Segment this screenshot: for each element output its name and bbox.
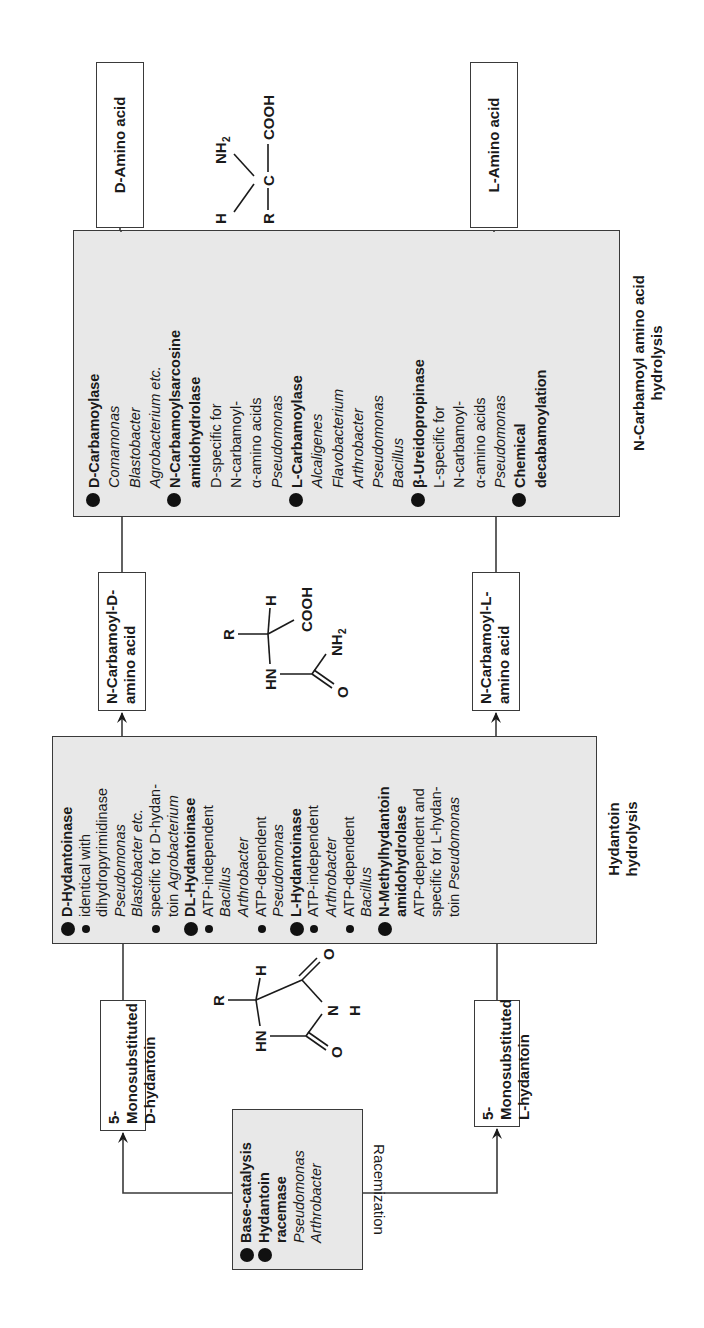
item-text: Base-catalysis (238, 1142, 256, 1243)
item-text: dihydropyrimidinase (94, 788, 112, 917)
svg-text:2: 2 (221, 136, 232, 142)
item-text: Bacillus (358, 867, 376, 917)
item-text: N-Carbamoylsarcosine (165, 330, 185, 488)
caption-line1: N-Carbamoyl amino acid (630, 248, 648, 478)
racemization-box: Base-catalysis Hydantoin racemase Pseudo… (232, 1109, 363, 1270)
compound-line2: amino acid (121, 579, 139, 704)
item-text: L-Hydantoinase (288, 808, 306, 917)
svg-text:R: R (220, 629, 237, 640)
svg-text:R: R (210, 995, 227, 1006)
item-text: Arthrobacter (308, 1163, 326, 1243)
item-text: Arthrobacter (323, 837, 341, 917)
item-text: Pseudomonas (368, 395, 388, 488)
bullet-icon (256, 1243, 274, 1263)
hydantoin-hydrolysis-caption: Hydantoin hydrolysis (605, 774, 641, 904)
item-text: amidohydrolase (185, 377, 205, 488)
bullet-icon (510, 488, 528, 508)
item-text: D-Carbamoylase (84, 374, 104, 488)
item-text: Pseudomonas (267, 395, 287, 488)
item-text: Hydantoin (256, 1172, 274, 1243)
svg-text:NH: NH (212, 142, 229, 164)
caption-line2: hydrolysis (623, 774, 641, 904)
svg-text:O: O (328, 1046, 345, 1058)
svg-text:O: O (320, 948, 337, 960)
svg-text:HN: HN (252, 1030, 269, 1052)
svg-text:O: O (334, 686, 351, 698)
n-carbamoyl-d-box: N-Carbamoyl-D- amino acid (98, 572, 146, 711)
item-text: Blastobacter (125, 407, 145, 488)
item-text: Bacillus (388, 438, 408, 488)
racemization-caption: Racemization (370, 1117, 388, 1262)
carbamoyl-amino-acid-structure: R H HN COOH O NH 2 (220, 568, 370, 698)
bullet-icon (376, 917, 394, 937)
n-carbamoyl-l-box: N-Carbamoyl-L- amino acid (472, 572, 520, 711)
item-text: L-Carbamoylase (287, 375, 307, 488)
item-text: Blastobacter etc. (129, 809, 147, 917)
compound-line1: 5-Monosubstituted (479, 1007, 515, 1120)
item-text: Flavobacterium (328, 389, 348, 488)
d-amino-acid-box: D-Amino acid (96, 62, 144, 228)
item-text: ATP-independent (200, 805, 218, 917)
item-organism: Agrobacterium (165, 795, 183, 889)
item-text: N-Methylhydantoin (376, 787, 394, 918)
bullet-icon (182, 917, 200, 937)
amino-acid-structure: H NH 2 R C COOH (210, 48, 320, 228)
item-text: Comamonas (104, 406, 124, 488)
l-hydantoin-box: 5-Monosubstituted L-hydantoin (474, 1000, 520, 1127)
bullet-icon (287, 488, 305, 508)
item-text: D-Hydantoinase (59, 807, 77, 917)
svg-text:HN: HN (262, 668, 279, 690)
bullet-icon (147, 917, 165, 937)
item-text: specific for L-hydan- (428, 786, 446, 917)
item-text: toin (165, 894, 183, 917)
svg-text:N: N (324, 1005, 341, 1016)
svg-text:H: H (262, 595, 279, 606)
bullet-icon (305, 917, 323, 937)
bullet-icon (77, 917, 95, 937)
svg-text:2: 2 (337, 628, 348, 634)
item-text: toin (446, 894, 464, 917)
compound-line1: N-Carbamoyl-L- (477, 579, 495, 704)
item-text: N-carbamoyl- (226, 401, 246, 488)
svg-text:R: R (260, 213, 277, 224)
d-hydantoin-box: 5-Monosubstituted D-hydantoin (100, 1000, 146, 1131)
item-text: α-amino acids (246, 397, 266, 488)
bullet-icon (341, 917, 359, 937)
item-text: Chemical (510, 424, 530, 488)
pathway-diagram: Base-catalysis Hydantoin racemase Pseudo… (0, 0, 704, 1328)
item-text: ATP-dependent (253, 817, 271, 918)
item-text: D-specific for (206, 403, 226, 488)
svg-text:H: H (346, 1005, 363, 1016)
bullet-icon (59, 917, 77, 937)
item-text: identical with (77, 834, 95, 917)
item-text: Arthrobacter (235, 837, 253, 917)
item-text: Pseudomonas (291, 1150, 309, 1243)
item-text: Alcaligenes (307, 414, 327, 488)
bullet-icon (165, 488, 183, 508)
svg-text:COOH: COOH (260, 95, 277, 140)
compound-line1: 5-Monosubstituted (105, 1007, 141, 1124)
caption-line2: hydrolysis (648, 248, 666, 478)
svg-text:H: H (252, 965, 269, 976)
item-text: Pseudomonas (270, 824, 288, 917)
item-text: specific for D-hydan- (147, 784, 165, 917)
svg-text:H: H (212, 213, 229, 224)
compound-line2: L-hydantoin (515, 1007, 533, 1120)
item-text: Arthrobacter (348, 408, 368, 488)
bullet-icon (409, 488, 427, 508)
compound-line1: N-Carbamoyl-D- (103, 579, 121, 704)
item-text: Pseudomonas (112, 824, 130, 917)
bullet-icon (84, 488, 102, 508)
caption-line1: Hydantoin (605, 774, 623, 904)
item-text: α-amino acids (470, 397, 490, 488)
item-organism: Pseudomonas (446, 797, 464, 890)
bullet-icon (238, 1243, 256, 1263)
item-text: N-carbamoyl- (449, 401, 469, 488)
item-text: DL-Hydantoinase (182, 798, 200, 917)
item-text: amidohydrolase (393, 806, 411, 917)
item-text: decabamoylation (531, 370, 551, 488)
bullet-icon (288, 917, 306, 937)
carbamoyl-hydrolysis-box: D-Carbamoylase Comamonas Blastobacter Ag… (73, 230, 620, 517)
compound-line2: D-hydantoin (141, 1007, 159, 1124)
item-text: Pseudomonas (490, 395, 510, 488)
